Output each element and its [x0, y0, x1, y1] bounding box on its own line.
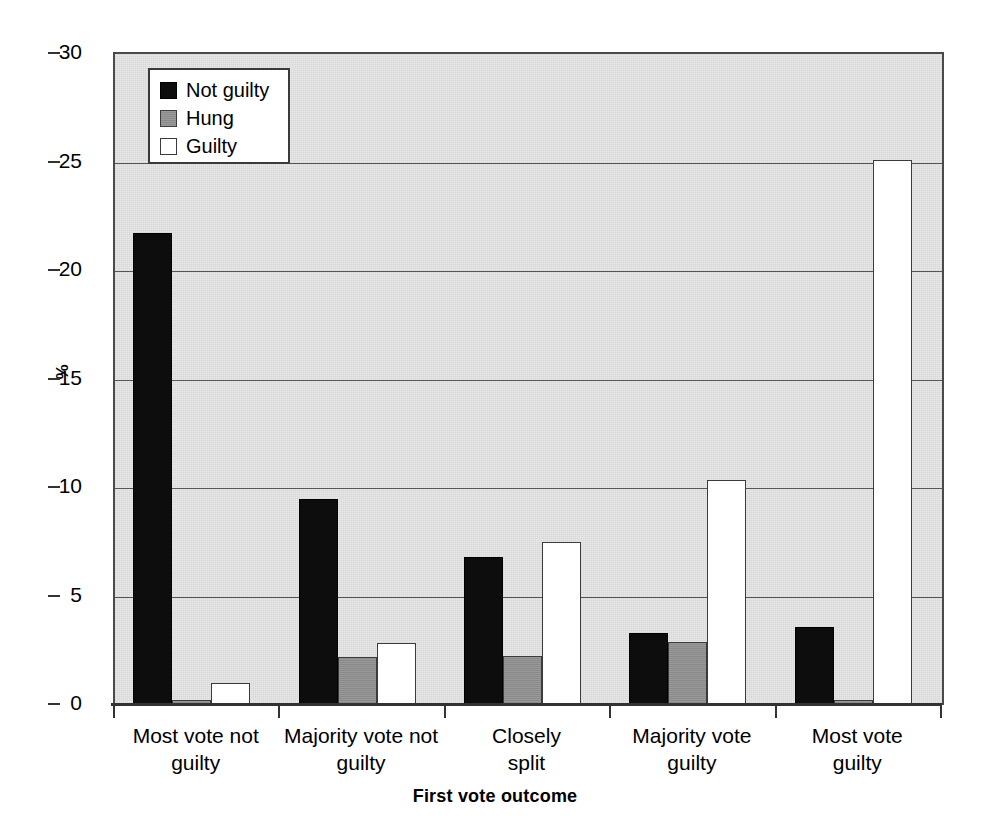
y-tick-label: 25: [38, 150, 82, 171]
x-tick-mark: [940, 703, 942, 718]
bar: [629, 633, 668, 705]
bar-chart: % 051015202530 Most vote not guiltyMajor…: [0, 0, 990, 816]
x-category-label: Most vote guilty: [775, 722, 940, 776]
y-tick-mark: [48, 52, 60, 54]
bar: [377, 643, 416, 705]
y-tick-mark: [48, 703, 60, 705]
y-tick-mark: [48, 161, 60, 163]
y-tick-label: 20: [38, 258, 82, 279]
legend-item-guilty: Guilty: [160, 132, 288, 160]
y-tick-label: 30: [38, 41, 82, 62]
gridline: [115, 597, 942, 598]
legend-label-guilty: Guilty: [186, 136, 237, 156]
x-category-label: Majority vote not guilty: [278, 722, 443, 776]
bar: [873, 160, 912, 705]
y-tick-mark: [48, 486, 60, 488]
gridline: [115, 271, 942, 272]
legend-swatch-not-guilty-icon: [160, 82, 177, 99]
gridline: [115, 488, 942, 489]
x-axis-baseline: [111, 703, 942, 706]
y-tick-label: 5: [38, 584, 82, 605]
bar: [707, 480, 746, 705]
gridline: [115, 380, 942, 381]
bar: [211, 683, 250, 705]
bar: [299, 499, 338, 705]
bar: [503, 656, 542, 705]
bar: [338, 657, 377, 705]
chart-legend: Not guilty Hung Guilty: [148, 68, 290, 164]
legend-swatch-hung-icon: [160, 110, 177, 127]
y-tick-mark: [48, 378, 60, 380]
legend-swatch-guilty-icon: [160, 138, 177, 155]
x-tick-mark: [113, 703, 115, 718]
x-tick-mark: [775, 703, 777, 718]
y-tick-label: 0: [38, 692, 82, 713]
legend-label-hung: Hung: [186, 108, 234, 128]
y-tick-label: 10: [38, 475, 82, 496]
y-tick-mark: [48, 595, 60, 597]
bar: [795, 627, 834, 705]
x-axis-title: First vote outcome: [0, 786, 990, 807]
bar: [464, 557, 503, 705]
x-category-label: Majority vote guilty: [609, 722, 774, 776]
bar: [668, 642, 707, 705]
x-tick-mark: [444, 703, 446, 718]
bar: [133, 233, 172, 705]
x-category-label: Closely split: [444, 722, 609, 776]
y-tick-mark: [48, 269, 60, 271]
legend-label-not-guilty: Not guilty: [186, 80, 269, 100]
x-category-label: Most vote not guilty: [113, 722, 278, 776]
legend-item-not-guilty: Not guilty: [160, 76, 288, 104]
x-tick-mark: [609, 703, 611, 718]
y-tick-label: 15: [38, 367, 82, 388]
legend-item-hung: Hung: [160, 104, 288, 132]
x-tick-mark: [278, 703, 280, 718]
bar: [542, 542, 581, 705]
